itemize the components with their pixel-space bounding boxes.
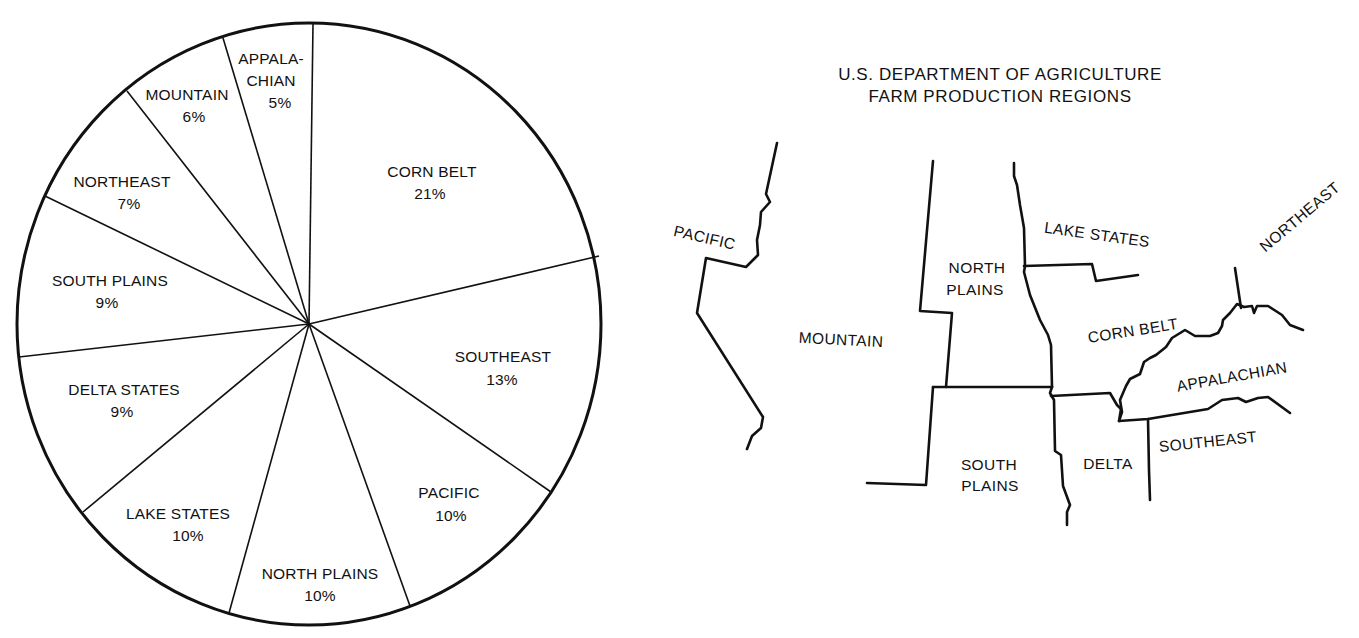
border-southplains-delta [1050, 387, 1070, 525]
pie-slice-pacific: PACIFIC 10% [418, 484, 479, 524]
slice-percent: 21% [414, 185, 446, 202]
map-label-corn-belt: CORN BELT [1087, 315, 1180, 346]
border-lakestates-cornbelt [1024, 264, 1138, 281]
slice-label: NORTHEAST [73, 173, 170, 190]
slice-percent: 9% [96, 294, 119, 311]
map-label-mountain: MOUNTAIN [798, 329, 883, 350]
figure-canvas: CORN BELT 21% SOUTHEAST 13% PACIFIC 10% … [0, 0, 1359, 638]
pie-slice-lake-states: LAKE STATES 10% [126, 505, 230, 544]
border-delta-southeast [1148, 419, 1150, 500]
slice-percent: 10% [304, 587, 336, 604]
map-title-line1: U.S. DEPARTMENT OF AGRICULTURE [838, 65, 1162, 84]
map-label-south-plains-1: SOUTH [961, 456, 1017, 473]
slice-percent: 10% [435, 507, 467, 524]
boundary-appalachian-cornbelt [309, 24, 313, 324]
pie-slice-delta-states: DELTA STATES 9% [68, 381, 180, 420]
map-label-delta: DELTA [1083, 455, 1133, 472]
map-label-appalachian: APPALACHIAN [1175, 358, 1288, 394]
slice-percent: 7% [118, 195, 141, 212]
map-label-northeast: NORTHEAST [1256, 178, 1343, 255]
farm-regions-map: U.S. DEPARTMENT OF AGRICULTURE FARM PROD… [672, 65, 1343, 525]
map-title-line2: FARM PRODUCTION REGIONS [868, 87, 1131, 106]
border-appalachian-southeast [1119, 397, 1290, 421]
slice-label: MOUNTAIN [145, 86, 228, 103]
slice-label-line2: CHIAN [246, 72, 295, 89]
boundary-deltastates-southplains [19, 324, 309, 357]
pie-slice-southeast: SOUTHEAST 13% [455, 348, 552, 388]
map-label-north-plains-2: PLAINS [946, 281, 1004, 298]
slice-label: CORN BELT [387, 163, 477, 180]
map-label-lake-states: LAKE STATES [1043, 219, 1151, 251]
slice-label: NORTH PLAINS [262, 565, 379, 582]
map-region-labels: PACIFIC MOUNTAIN NORTH PLAINS SOUTH PLAI… [672, 178, 1343, 494]
map-label-south-plains-2: PLAINS [961, 477, 1019, 494]
map-label-pacific: PACIFIC [672, 222, 737, 253]
border-cornbelt-delta [1051, 393, 1121, 409]
border-northplains-east [1014, 163, 1052, 387]
border-northeast-west [1235, 268, 1241, 308]
slice-percent: 13% [486, 371, 518, 388]
pie-slice-mountain: MOUNTAIN 6% [145, 86, 228, 125]
pie-slice-appalachian: APPALA- CHIAN 5% [238, 50, 304, 111]
slice-label: APPALA- [238, 50, 304, 67]
slice-percent: 9% [111, 403, 134, 420]
slice-percent: 10% [172, 527, 204, 544]
boundary-southplains-northeast [45, 196, 309, 324]
map-label-north-plains-1: NORTH [949, 259, 1006, 276]
pie-slice-northeast: NORTHEAST 7% [73, 173, 170, 212]
boundary-northeast-mountain [127, 91, 309, 324]
border-pacific-mountain [697, 143, 777, 449]
pie-slice-boundaries [19, 24, 599, 613]
slice-label: SOUTHEAST [455, 348, 552, 365]
border-mountain-northplains [920, 161, 952, 387]
slice-label: DELTA STATES [68, 381, 180, 398]
boundary-cornbelt-southeast [309, 256, 599, 324]
pie-chart: CORN BELT 21% SOUTHEAST 13% PACIFIC 10% … [17, 23, 601, 625]
pie-slice-corn-belt: CORN BELT 21% [387, 163, 477, 202]
slice-label: PACIFIC [418, 484, 479, 501]
slice-percent: 6% [183, 108, 206, 125]
pie-slice-north-plains: NORTH PLAINS 10% [262, 565, 379, 604]
boundary-pacific-northplains [309, 324, 410, 606]
slice-label: SOUTH PLAINS [52, 272, 168, 289]
border-mountain-southplains [867, 387, 933, 485]
pie-slice-south-plains: SOUTH PLAINS 9% [52, 272, 168, 311]
slice-label: LAKE STATES [126, 505, 230, 522]
map-label-southeast: SOUTHEAST [1158, 428, 1258, 455]
slice-percent: 5% [269, 94, 292, 111]
